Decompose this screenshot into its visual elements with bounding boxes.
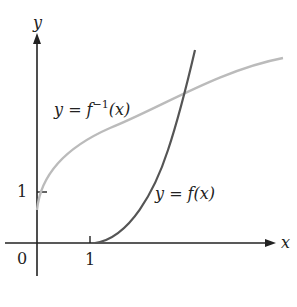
inverse-function-diagram: y x 0 1 1 y = f−1(x) y = f(x) [0,0,297,307]
f-inverse-label: y = f−1(x) [53,98,130,119]
y-axis-label: y [32,13,43,32]
y-axis-arrow-icon [33,33,41,44]
f-label: y = f(x) [154,184,215,203]
x-tick-label: 1 [85,250,95,269]
x-axis-label: x [281,233,290,252]
x-axis-arrow-icon [265,239,276,247]
curve-f [95,50,195,243]
y-tick-label: 1 [17,182,27,201]
origin-label: 0 [17,249,27,268]
